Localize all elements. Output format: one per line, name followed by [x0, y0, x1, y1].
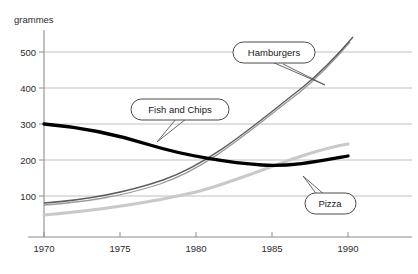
x-tick-label-1985: 1985 — [261, 243, 282, 254]
annotation-callout-pizza[interactable]: Pizza — [305, 193, 356, 214]
annotation-leader-hamburgers — [272, 62, 325, 85]
chart-plot-area: 500 400 300 200 100 1970 1975 1980 1985 … — [0, 0, 418, 274]
y-tick-label-500: 500 — [20, 47, 36, 58]
annotation-callout-hamburgers[interactable]: Hamburgers — [233, 42, 315, 63]
y-tick-label-400: 400 — [20, 83, 36, 94]
annotation-callout-fish-and-chips[interactable]: Fish and Chips — [131, 99, 229, 120]
y-tick-label-100: 100 — [20, 191, 36, 202]
y-tick-label-300: 300 — [20, 119, 36, 130]
line-chart-figure: grammes 50 — [0, 0, 418, 274]
x-tick-label-1990: 1990 — [337, 243, 358, 254]
annotation-label-pizza: Pizza — [318, 198, 342, 209]
x-tick-label-1970: 1970 — [33, 243, 54, 254]
series-fish-and-chips — [44, 124, 348, 165]
x-axis-tick-labels: 1970 1975 1980 1985 1990 — [33, 243, 358, 254]
x-tick-label-1980: 1980 — [185, 243, 206, 254]
annotation-leader-fish-and-chips — [157, 119, 186, 142]
x-tick-label-1975: 1975 — [109, 243, 130, 254]
y-tick-label-200: 200 — [20, 155, 36, 166]
y-axis-tick-labels: 500 400 300 200 100 — [20, 47, 36, 202]
annotation-label-hamburgers: Hamburgers — [248, 47, 301, 58]
annotation-label-fish-and-chips: Fish and Chips — [148, 104, 212, 115]
series-hamburgers-companion — [44, 42, 350, 205]
horizontal-gridlines — [44, 52, 412, 196]
x-axis-tick-marks — [44, 232, 348, 237]
